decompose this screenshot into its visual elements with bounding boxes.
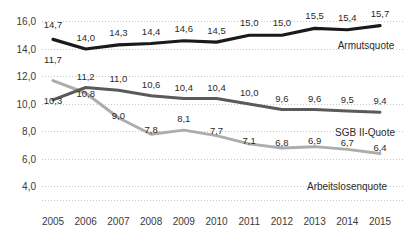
x-axis-tick-labels: 2005200620072008200920102011201220132014… <box>42 216 392 227</box>
y-axis-tick-label: 16,0 <box>17 16 37 27</box>
data-point-label: 10,3 <box>44 95 63 106</box>
data-point-label: 10,8 <box>76 88 95 99</box>
data-point-label: 14,4 <box>142 26 161 37</box>
y-axis-tick-label: 8,0 <box>22 126 36 137</box>
data-point-label: 14,3 <box>109 27 128 38</box>
data-point-label: 7,1 <box>243 135 256 146</box>
data-point-label: 10,6 <box>142 79 161 90</box>
data-point-label: 9,0 <box>112 110 125 121</box>
data-point-label: 11,2 <box>77 71 95 82</box>
x-axis-tick-label: 2010 <box>205 216 228 227</box>
series-label-arbeitslosenquote: Arbeitslosenquote <box>307 181 387 192</box>
x-axis-tick-label: 2005 <box>42 216 65 227</box>
data-point-label: 15,7 <box>371 8 390 19</box>
y-axis-tick-label: 14,0 <box>17 44 37 55</box>
data-point-label: 6,4 <box>373 142 386 153</box>
y-axis-tick-label: 4,0 <box>22 181 36 192</box>
x-axis-tick-label: 2007 <box>107 216 130 227</box>
data-point-label: 14,7 <box>44 19 63 30</box>
x-axis-tick-label: 2012 <box>271 216 294 227</box>
x-axis-tick-label: 2009 <box>173 216 196 227</box>
y-axis-tick-label: 6,0 <box>22 154 36 165</box>
data-point-label: 14,5 <box>207 25 226 36</box>
data-point-label: 14,0 <box>76 32 95 43</box>
chart-canvas: 4,06,08,010,012,014,016,0 20052006200720… <box>0 0 408 241</box>
x-axis-tick-label: 2011 <box>238 216 260 227</box>
data-point-label: 15,0 <box>273 17 292 28</box>
data-point-label: 9,6 <box>308 93 321 104</box>
chart-background <box>0 0 408 241</box>
data-point-label: 11,0 <box>110 73 128 84</box>
x-axis-tick-label: 2015 <box>369 216 392 227</box>
data-point-label: 10,4 <box>207 82 226 93</box>
x-axis-tick-label: 2013 <box>303 216 326 227</box>
data-point-label: 6,9 <box>308 135 321 146</box>
data-point-label: 9,5 <box>341 94 354 105</box>
data-point-label: 10,4 <box>175 82 194 93</box>
y-axis-tick-label: 10,0 <box>17 99 37 110</box>
data-point-label: 9,4 <box>373 95 386 106</box>
data-point-label: 11,7 <box>44 54 62 65</box>
x-axis-tick-label: 2006 <box>75 216 98 227</box>
series-label-armutsquote: Armutsquote <box>338 40 395 51</box>
data-point-label: 6,7 <box>341 137 354 148</box>
x-axis-tick-label: 2014 <box>336 216 359 227</box>
data-point-label: 10,0 <box>240 87 259 98</box>
data-point-label: 6,8 <box>275 137 288 148</box>
data-point-label: 15,5 <box>305 10 324 21</box>
data-point-label: 15,0 <box>240 17 259 28</box>
line-chart: 4,06,08,010,012,014,016,0 20052006200720… <box>0 0 408 241</box>
x-axis-tick-label: 2008 <box>140 216 163 227</box>
data-point-label: 7,7 <box>210 125 223 136</box>
data-point-label: 15,4 <box>338 12 357 23</box>
data-point-label: 8,1 <box>177 113 190 124</box>
data-point-label: 7,8 <box>144 124 157 135</box>
data-point-label: 9,6 <box>275 93 288 104</box>
series-label-sgb-ii-quote: SGB II-Quote <box>335 127 395 138</box>
y-axis-tick-label: 12,0 <box>17 71 37 82</box>
data-point-label: 14,6 <box>175 23 194 34</box>
